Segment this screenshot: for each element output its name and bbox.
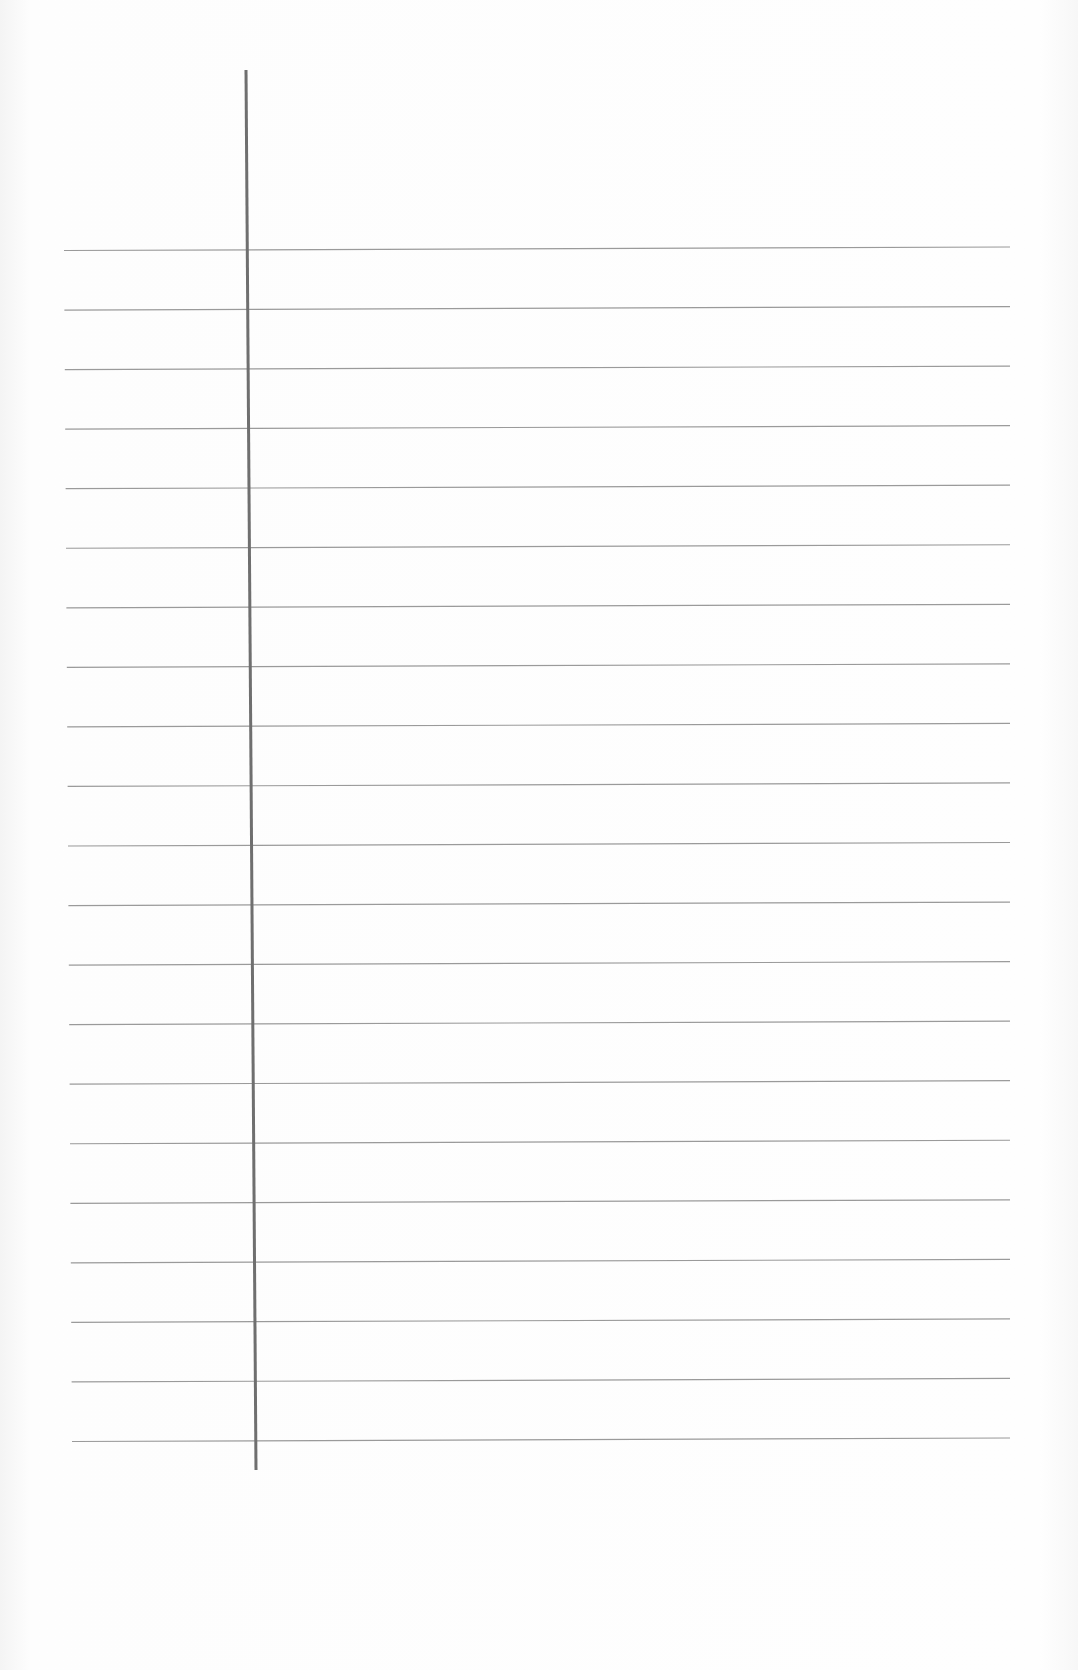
- rule-line: [72, 1438, 1010, 1442]
- rule-line: [65, 366, 1010, 370]
- rule-line: [64, 307, 1010, 311]
- margin-line: [246, 70, 256, 1470]
- rule-line: [66, 545, 1010, 549]
- rule-line: [70, 1140, 1010, 1144]
- ruled-paper-page: [0, 0, 1078, 1670]
- rule-line: [66, 485, 1010, 489]
- rule-line: [72, 1378, 1010, 1382]
- rule-line: [70, 1200, 1010, 1204]
- rule-line: [71, 1319, 1010, 1323]
- rule-line: [68, 902, 1010, 906]
- rule-line: [70, 1081, 1010, 1085]
- rule-line: [67, 723, 1010, 727]
- rule-line: [68, 783, 1010, 787]
- rule-line: [67, 664, 1010, 668]
- rule-line: [66, 604, 1010, 608]
- ruled-lines: [0, 0, 1078, 1670]
- rule-line: [64, 247, 1010, 251]
- rule-line: [69, 962, 1010, 966]
- rule-line: [71, 1259, 1010, 1263]
- rule-line: [69, 1021, 1010, 1025]
- rule-line: [68, 843, 1010, 847]
- rule-line: [65, 426, 1010, 430]
